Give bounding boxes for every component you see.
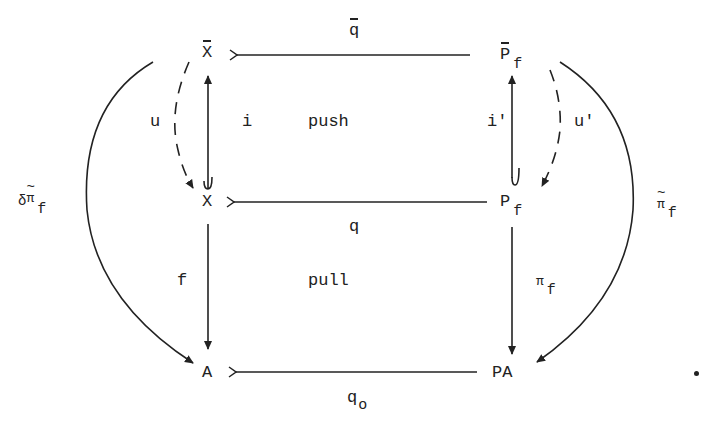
diagram-arrows xyxy=(0,0,709,423)
label-delta-pi-tilde-f: δπf xyxy=(18,192,46,209)
label-q: q xyxy=(349,218,359,235)
stray-dot xyxy=(694,371,699,376)
label-q-o: qo xyxy=(347,389,367,406)
region-pull: pull xyxy=(308,272,349,289)
arrow-u-prime xyxy=(542,70,560,186)
label-f: f xyxy=(177,272,187,289)
label-pi-f: πf xyxy=(536,275,556,292)
node-a: A xyxy=(202,364,212,381)
label-u: u xyxy=(150,113,160,130)
arrow-i-prime xyxy=(159,0,519,185)
arrow-i xyxy=(204,76,212,189)
region-push: push xyxy=(308,113,349,130)
node-pa: PA xyxy=(492,364,512,381)
top-fragment: " xyxy=(123,0,130,6)
label-i-prime: i' xyxy=(487,113,507,130)
label-i: i xyxy=(242,113,252,130)
node-p-f: Pf xyxy=(500,193,522,210)
node-p-bar-f: Pf xyxy=(500,46,522,63)
node-x: X xyxy=(202,193,212,210)
label-q-bar: q xyxy=(349,22,359,39)
node-x-bar: X xyxy=(202,44,212,61)
arrow-u xyxy=(175,62,193,188)
arrow-delta-pi-tilde-f xyxy=(86,62,193,363)
label-u-prime: u' xyxy=(574,113,594,130)
label-pi-tilde-f: πf xyxy=(657,198,677,215)
